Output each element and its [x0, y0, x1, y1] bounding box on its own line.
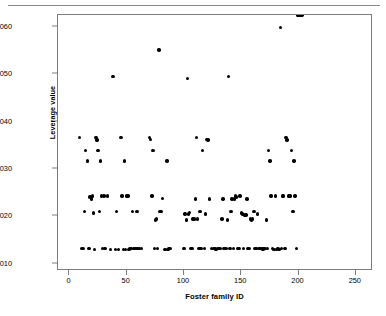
data-point — [150, 194, 153, 197]
x-tick-mark — [355, 270, 356, 275]
scatter-plot-figure: 0.0100.0200.0300.0400.0500.060 050100150… — [0, 0, 386, 316]
data-point — [194, 197, 197, 200]
data-point — [185, 218, 188, 221]
x-tick-label: 50 — [106, 276, 146, 285]
x-tick-mark — [240, 270, 241, 275]
data-point — [267, 149, 270, 152]
data-point — [92, 211, 95, 214]
data-point — [283, 247, 286, 250]
data-point — [242, 247, 245, 250]
y-tick-mark — [52, 215, 57, 216]
data-point — [196, 217, 199, 220]
x-tick-mark — [298, 270, 299, 275]
data-point — [285, 138, 288, 141]
y-tick-label: 0.050 — [0, 69, 12, 78]
data-point — [251, 217, 254, 220]
data-point — [111, 75, 114, 78]
data-point — [156, 247, 159, 250]
data-point — [140, 247, 143, 250]
data-point — [220, 217, 223, 220]
y-tick-label: 0.040 — [0, 116, 12, 125]
data-point — [83, 210, 86, 213]
y-axis-label: Leverage value — [48, 53, 57, 173]
data-point — [227, 75, 230, 78]
data-point — [293, 194, 296, 197]
x-tick-mark — [68, 270, 69, 275]
y-tick-mark — [52, 262, 57, 263]
data-point — [155, 217, 158, 220]
x-tick-label: 150 — [220, 276, 260, 285]
data-point — [126, 194, 129, 197]
data-point — [232, 247, 235, 250]
y-tick-label: 0.030 — [0, 164, 12, 173]
data-point — [282, 194, 285, 197]
data-point — [96, 149, 99, 152]
data-point — [290, 149, 293, 152]
data-point — [95, 138, 98, 141]
x-tick-mark — [126, 270, 127, 275]
data-point — [279, 26, 282, 29]
data-point — [248, 247, 251, 250]
data-point — [300, 15, 303, 17]
data-point — [106, 194, 109, 197]
data-point — [169, 247, 172, 250]
data-point — [188, 211, 191, 214]
data-point — [244, 213, 247, 216]
data-point — [295, 247, 298, 250]
data-point — [203, 247, 206, 250]
data-point — [117, 248, 120, 251]
figure-page: 0.0100.0200.0300.0400.0500.060 050100150… — [0, 0, 386, 316]
data-point — [237, 247, 240, 250]
data-point — [161, 197, 164, 200]
data-point — [103, 247, 106, 250]
x-tick-label: 100 — [163, 276, 203, 285]
data-point — [93, 248, 96, 251]
data-point — [91, 194, 94, 197]
data-point — [87, 247, 90, 250]
data-point — [165, 159, 168, 162]
data-point — [86, 159, 89, 162]
data-point — [182, 247, 185, 250]
data-point — [265, 218, 268, 221]
y-tick-mark — [52, 25, 57, 26]
data-point — [274, 194, 277, 197]
data-point — [123, 159, 126, 162]
data-point — [99, 159, 102, 162]
data-point — [221, 197, 224, 200]
data-point — [198, 210, 201, 213]
data-point — [119, 136, 122, 139]
y-tick-label: 0.020 — [0, 211, 12, 220]
data-point — [135, 210, 138, 213]
data-point — [98, 210, 101, 213]
x-tick-label: 0 — [48, 276, 88, 285]
plot-data-area — [58, 15, 371, 269]
data-point — [201, 149, 204, 152]
data-point — [245, 197, 248, 200]
x-axis-label: Foster family ID — [57, 292, 372, 301]
data-point — [238, 194, 241, 197]
x-tick-label: 200 — [278, 276, 318, 285]
data-point — [208, 197, 211, 200]
data-point — [204, 212, 207, 215]
data-point — [131, 210, 134, 213]
data-point — [269, 194, 272, 197]
data-point — [151, 149, 154, 152]
data-point — [292, 159, 295, 162]
x-tick-mark — [183, 270, 184, 275]
data-point — [190, 247, 193, 250]
data-point — [115, 210, 118, 213]
data-point — [206, 138, 209, 141]
data-point — [149, 138, 152, 141]
data-point — [226, 218, 229, 221]
data-point — [120, 194, 123, 197]
data-point — [159, 210, 162, 213]
plot-frame — [57, 14, 372, 270]
data-point — [195, 136, 198, 139]
y-tick-label: 0.060 — [0, 21, 12, 30]
data-point — [78, 136, 81, 139]
data-point — [82, 247, 85, 250]
data-point — [157, 48, 160, 51]
x-tick-label: 250 — [335, 276, 375, 285]
data-point — [109, 248, 112, 251]
data-point — [84, 149, 87, 152]
